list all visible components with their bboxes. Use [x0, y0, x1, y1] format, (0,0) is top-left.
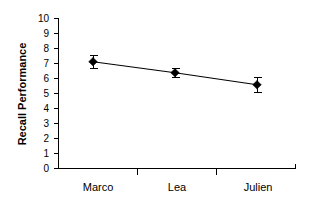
y-tick-label: 9 — [43, 28, 49, 39]
y-tick-label: 3 — [43, 118, 49, 129]
y-tick-label: 6 — [43, 73, 49, 84]
recall-performance-line-chart: Recall Performance 10 9 8 7 6 5 4 3 2 1 … — [0, 0, 313, 207]
x-category-label-lea: Lea — [168, 181, 187, 193]
y-tick-label: 7 — [43, 58, 49, 69]
chart-container: Recall Performance 10 9 8 7 6 5 4 3 2 1 … — [0, 0, 313, 207]
y-tick-label: 2 — [43, 133, 49, 144]
y-tick-label: 0 — [43, 163, 49, 174]
y-axis-title: Recall Performance — [16, 43, 28, 146]
y-tick-label: 5 — [43, 88, 49, 99]
y-tick-label: 10 — [38, 13, 50, 24]
y-tick-label: 8 — [43, 43, 49, 54]
y-tick-label: 4 — [43, 103, 49, 114]
x-category-label-julien: Julien — [244, 181, 273, 193]
x-category-label-marco: Marco — [83, 181, 114, 193]
y-tick-label: 1 — [43, 148, 49, 159]
x-axis-category-labels: Marco Lea Julien — [83, 181, 273, 193]
